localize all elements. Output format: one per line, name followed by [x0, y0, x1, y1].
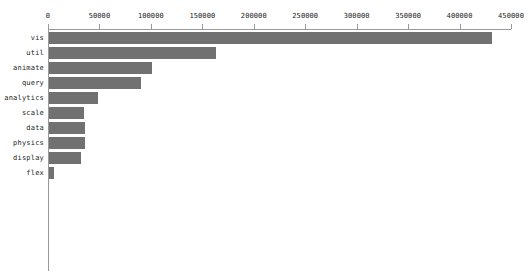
bar: [49, 137, 85, 149]
bar-row: physics: [0, 137, 528, 149]
bar: [49, 152, 81, 164]
bar-row: scale: [0, 107, 528, 119]
bar: [49, 32, 492, 44]
bar-row: display: [0, 152, 528, 164]
x-axis: 0500001000001500002000002500003000003500…: [0, 0, 528, 30]
y-axis-category-label: display: [0, 153, 44, 163]
bar-chart: 0500001000001500002000002500003000003500…: [0, 0, 528, 280]
x-axis-tick-label: 250000: [292, 12, 318, 20]
y-axis-category-label: data: [0, 123, 44, 133]
bar-row: flex: [0, 167, 528, 179]
bar: [49, 77, 141, 89]
x-axis-tick-label: 200000: [241, 12, 267, 20]
bar-row: util: [0, 47, 528, 59]
y-axis-category-label: vis: [0, 33, 44, 43]
x-axis-tick-label: 100000: [138, 12, 164, 20]
x-axis-tick-label: 300000: [344, 12, 370, 20]
x-axis-tick-label: 150000: [189, 12, 215, 20]
x-axis-tick-label: 50000: [89, 12, 111, 20]
x-axis-tick-label: 400000: [447, 12, 473, 20]
y-axis-category-label: physics: [0, 138, 44, 148]
y-axis-category-label: query: [0, 78, 44, 88]
y-axis-category-label: analytics: [0, 93, 44, 103]
x-axis-tick-label: 0: [46, 12, 50, 20]
y-axis-category-label: scale: [0, 108, 44, 118]
bar: [49, 107, 84, 119]
bar-row: data: [0, 122, 528, 134]
x-axis-tick-mark: [511, 24, 512, 29]
y-axis-category-label: animate: [0, 63, 44, 73]
bar: [49, 47, 216, 59]
bar: [49, 62, 152, 74]
bar-row: query: [0, 77, 528, 89]
plot-area: visutilanimatequeryanalyticsscaledataphy…: [0, 30, 528, 280]
bar: [49, 122, 85, 134]
y-axis-category-label: flex: [0, 168, 44, 178]
y-axis-category-label: util: [0, 48, 44, 58]
bar-row: vis: [0, 32, 528, 44]
bar-row: analytics: [0, 92, 528, 104]
x-axis-tick-label: 450000: [498, 12, 524, 20]
x-axis-tick-label: 350000: [395, 12, 421, 20]
bar-row: animate: [0, 62, 528, 74]
bar: [49, 167, 54, 179]
bar: [49, 92, 98, 104]
